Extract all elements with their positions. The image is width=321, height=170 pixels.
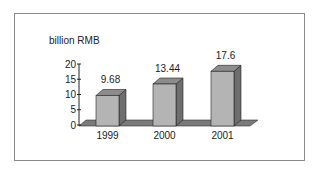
x-category-label: 2000 bbox=[153, 130, 176, 141]
bar-2001: 17.62001 bbox=[211, 50, 241, 141]
y-tick-label: 10 bbox=[65, 89, 77, 100]
bars-group: 9.68199913.44200017.62001 bbox=[96, 50, 241, 141]
bar-value-label: 17.6 bbox=[216, 50, 236, 61]
y-tick-label: 15 bbox=[65, 74, 77, 85]
x-category-label: 2001 bbox=[211, 130, 234, 141]
x-category-label: 1999 bbox=[96, 130, 119, 141]
bar-2000: 13.442000 bbox=[153, 63, 183, 141]
bar-chart: 05101520 9.68199913.44200017.62001 bbox=[0, 0, 321, 170]
bar-value-label: 13.44 bbox=[155, 63, 180, 74]
y-tick-label: 20 bbox=[65, 59, 77, 70]
bar-value-label: 9.68 bbox=[101, 74, 121, 85]
y-tick-label: 5 bbox=[70, 104, 76, 115]
bar-1999: 9.681999 bbox=[96, 74, 126, 141]
y-tick-label: 0 bbox=[70, 120, 76, 131]
